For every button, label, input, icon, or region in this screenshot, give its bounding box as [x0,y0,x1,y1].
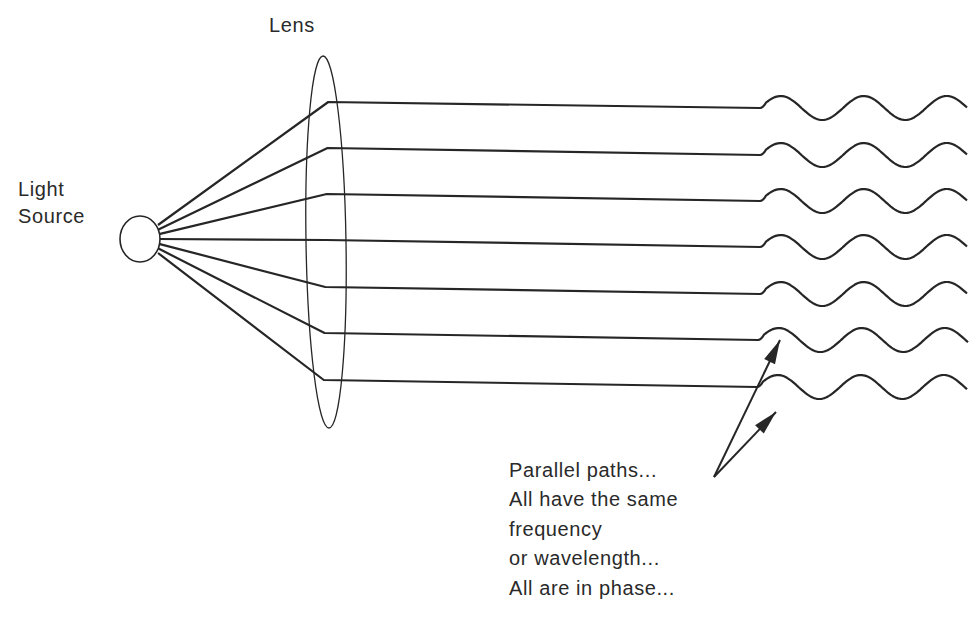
annotation-line: All are in phase... [509,574,678,603]
annotation-line: frequency [509,515,678,544]
light-source-label-line: Source [18,203,85,230]
annotation-text: Parallel paths... All have the same freq… [509,456,678,603]
light-rays [158,96,968,399]
light-ray [158,189,967,234]
annotation-line: or wavelength... [509,544,678,573]
light-source-label-line: Light [18,176,85,203]
lens-ellipse [303,56,349,429]
light-source-label: Light Source [18,176,85,230]
arrowhead-icon [764,340,780,364]
annotation-arrows [714,340,780,477]
light-source-circle [120,216,160,262]
annotation-line: Parallel paths... [509,456,678,485]
annotation-line: All have the same [509,485,678,514]
lens-label: Lens [269,14,315,36]
lens-outline [303,56,349,429]
light-ray [158,248,968,352]
light-ray [158,235,967,259]
light-ray [158,244,967,306]
light-ray [158,143,967,230]
diagram-canvas [0,0,977,617]
